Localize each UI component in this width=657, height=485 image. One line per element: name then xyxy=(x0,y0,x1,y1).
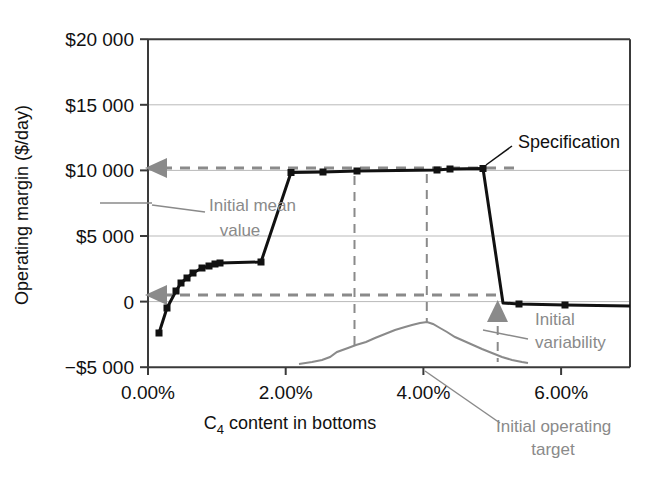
initial-mean-value-label-line2: value xyxy=(220,221,261,240)
data-point-marker xyxy=(164,305,171,312)
initial-operating-target-label-line2: target xyxy=(531,440,575,459)
x-axis-title-sub: 4 xyxy=(217,422,224,437)
y-axis-title: Operating margin ($/day) xyxy=(12,105,32,305)
data-point-marker xyxy=(199,265,206,272)
data-point-marker xyxy=(434,167,441,174)
y-tick-label-minus5000: −$5 000 xyxy=(65,357,134,378)
data-point-marker xyxy=(320,169,327,176)
chart-figure: $20 000 $15 000 $10 000 $5 000 0 −$5 000… xyxy=(0,0,657,485)
y-tick-label-5000: $5 000 xyxy=(76,226,134,247)
data-point-marker xyxy=(190,270,197,277)
data-point-marker xyxy=(217,260,224,267)
data-point-marker xyxy=(354,168,361,175)
data-point-marker xyxy=(480,165,487,172)
x-axis-title-rest: content in bottoms xyxy=(224,413,376,433)
x-tick-label-4: 4.00% xyxy=(396,382,450,403)
data-point-marker xyxy=(258,259,265,266)
data-point-marker xyxy=(173,288,180,295)
data-point-marker xyxy=(156,330,163,337)
data-point-marker xyxy=(178,280,185,287)
initial-mean-value-label-line1: Initial mean xyxy=(209,196,296,215)
x-tick-label-6: 6.00% xyxy=(534,382,588,403)
initial-variability-label-line1: Initial xyxy=(535,310,575,329)
data-point-marker xyxy=(184,275,191,282)
operating-margin-chart: $20 000 $15 000 $10 000 $5 000 0 −$5 000… xyxy=(0,0,657,485)
data-point-marker xyxy=(562,302,569,309)
y-tick-label-0: 0 xyxy=(123,292,134,313)
data-point-marker xyxy=(288,169,295,176)
y-tick-label-10000: $10 000 xyxy=(65,160,134,181)
data-point-marker xyxy=(206,263,213,270)
y-tick-label-15000: $15 000 xyxy=(65,95,134,116)
x-tick-label-2: 2.00% xyxy=(259,382,313,403)
y-tick-label-20000: $20 000 xyxy=(65,29,134,50)
specification-label: Specification xyxy=(518,132,620,152)
x-tick-label-0: 0.00% xyxy=(121,382,175,403)
data-point-marker xyxy=(447,166,454,173)
data-point-marker xyxy=(516,301,523,308)
initial-variability-label-line2: variability xyxy=(535,333,606,352)
initial-operating-target-label-line1: Initial operating xyxy=(496,417,611,436)
x-axis-title-main: C xyxy=(204,413,217,433)
